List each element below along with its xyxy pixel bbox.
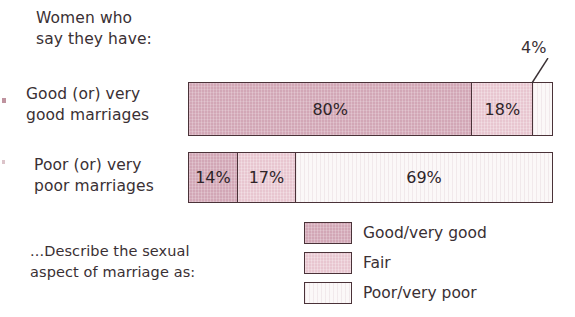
callout-label-4-percent: 4% [521,38,546,57]
row-label-poor-marriages: Poor (or) very poor marriages [34,155,154,197]
bar-segment-value: 17% [249,168,285,187]
bar-segment-value: 80% [312,100,348,119]
legend-swatch-poor [304,282,352,304]
legend-swatch-good [304,222,352,244]
bar-segment-poor: 4% [532,83,552,135]
legend-item-poor: Poor/very poor [304,278,487,308]
legend-item-good: Good/very good [304,218,487,248]
legend-label-fair: Fair [363,254,391,272]
bar-segment-fair: 17% [237,153,295,202]
stacked-bar-poor-marriages: 14% 17% 69% [188,152,553,203]
callout-leader-line-icon [528,58,550,84]
page-edge-mark [2,98,6,103]
row-label-good-marriages: Good (or) very good marriages [26,84,149,126]
bar-segment-good: 14% [189,153,237,202]
chart-figure: Women who say they have: Good (or) very … [0,0,575,317]
caption-text: ...Describe the sexual aspect of marriag… [30,241,195,283]
legend: Good/very good Fair Poor/very poor [304,218,487,308]
legend-label-good: Good/very good [363,224,487,242]
legend-item-fair: Fair [304,248,487,278]
bar-segment-good: 80% [189,83,471,135]
page-edge-mark [2,160,5,164]
bar-segment-poor: 69% [295,153,552,202]
stacked-bar-good-marriages: 80% 18% 4% [188,82,553,136]
bar-segment-value: 69% [406,168,442,187]
bar-segment-value: 14% [195,168,231,187]
bar-segment-value: 18% [485,100,521,119]
legend-swatch-fair [304,252,352,274]
intro-text: Women who say they have: [36,8,152,50]
bar-segment-fair: 18% [471,83,532,135]
legend-label-poor: Poor/very poor [363,284,477,302]
